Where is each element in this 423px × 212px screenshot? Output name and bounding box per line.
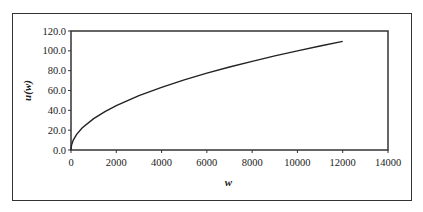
- x-tick-label: 10000: [284, 157, 310, 168]
- x-axis: 02000400060008000100001200014000: [68, 150, 401, 168]
- y-tick-label: 40.0: [48, 105, 66, 116]
- x-axis-title: w: [225, 176, 233, 188]
- y-tick-label: 80.0: [48, 65, 66, 76]
- y-tick-label: 120.0: [42, 26, 66, 37]
- plot-area: [71, 31, 388, 150]
- series-line-u-w: [71, 41, 343, 150]
- y-tick-label: 20.0: [48, 125, 66, 136]
- y-tick-label: 0.0: [53, 145, 66, 156]
- y-tick-label: 60.0: [48, 85, 66, 96]
- x-tick-label: 4000: [151, 157, 172, 168]
- x-tick-label: 12000: [330, 157, 356, 168]
- x-tick-label: 6000: [196, 157, 217, 168]
- y-tick-label: 100.0: [42, 45, 66, 56]
- y-axis-title: u(w): [21, 80, 34, 101]
- line-chart: 0.020.040.060.080.0100.0120.0 0200040006…: [0, 0, 423, 212]
- y-axis: 0.020.040.060.080.0100.0120.0: [42, 26, 71, 156]
- x-tick-label: 8000: [242, 157, 263, 168]
- x-tick-label: 2000: [106, 157, 127, 168]
- x-tick-label: 14000: [375, 157, 401, 168]
- x-tick-label: 0: [68, 157, 73, 168]
